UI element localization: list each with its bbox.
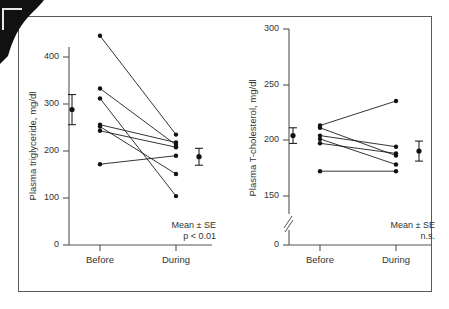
annotation-pvalue: p < 0.01 bbox=[183, 231, 216, 241]
x-label-during: During bbox=[162, 254, 190, 265]
y-axis-title: Plasma triglyceride, mg/dl bbox=[27, 92, 38, 201]
x-label-during: During bbox=[382, 254, 410, 265]
cholesterol-plot: 0 150 200 250 300 Before During Plasma T… bbox=[228, 0, 449, 309]
subject-lines bbox=[320, 101, 396, 171]
y-axis-title: Plasma T-cholesterol, mg/dl bbox=[247, 79, 258, 196]
panel-triglyceride: 0 100 200 300 400 Before During Plasma t… bbox=[0, 0, 230, 309]
y-tick-label-200: 200 bbox=[44, 145, 59, 155]
annotation-signif: n.s. bbox=[420, 231, 435, 241]
x-label-before: Before bbox=[86, 254, 114, 265]
x-ticks bbox=[320, 245, 396, 251]
mean-se-during bbox=[415, 141, 423, 161]
subject-lines bbox=[100, 36, 176, 196]
before-points bbox=[318, 123, 322, 173]
y-tick-label-250: 250 bbox=[264, 79, 279, 89]
mean-se-before bbox=[289, 128, 297, 144]
annotation-mean-se: Mean ± SE bbox=[391, 220, 435, 230]
figure-root: 0 100 200 300 400 Before During Plasma t… bbox=[0, 0, 449, 309]
mean-se-during bbox=[195, 148, 203, 165]
x-label-before: Before bbox=[306, 254, 334, 265]
triglyceride-plot: 0 100 200 300 400 Before During Plasma t… bbox=[0, 0, 230, 309]
during-points bbox=[394, 99, 398, 174]
y-tick-label-0: 0 bbox=[54, 239, 59, 249]
y-tick-label-100: 100 bbox=[44, 192, 59, 202]
y-tick-label-300: 300 bbox=[44, 98, 59, 108]
y-ticks bbox=[63, 57, 69, 245]
during-points bbox=[174, 132, 178, 198]
annotation-mean-se: Mean ± SE bbox=[172, 220, 216, 230]
x-ticks bbox=[100, 245, 176, 251]
y-tick-label-200: 200 bbox=[264, 134, 279, 144]
y-tick-label-400: 400 bbox=[44, 51, 59, 61]
axis-break-icon bbox=[284, 216, 293, 232]
panel-cholesterol: 0 150 200 250 300 Before During Plasma T… bbox=[228, 0, 449, 309]
y-tick-label-300: 300 bbox=[264, 23, 279, 33]
y-ticks bbox=[283, 29, 289, 245]
y-tick-label-150: 150 bbox=[264, 190, 279, 200]
y-tick-label-0: 0 bbox=[274, 239, 279, 249]
